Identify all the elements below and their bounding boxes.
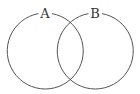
circle-a: [7, 14, 83, 89]
venn-diagram: A B: [0, 0, 140, 94]
label-b: B: [90, 6, 100, 21]
label-a: A: [39, 6, 50, 21]
circle-b: [57, 14, 133, 89]
venn-svg: A B: [0, 0, 140, 94]
